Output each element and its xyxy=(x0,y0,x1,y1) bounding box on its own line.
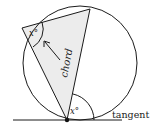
angle-label-bottom: x° xyxy=(70,106,79,116)
tangent-label: tangent xyxy=(112,109,149,120)
tangent-point-dot xyxy=(65,118,69,122)
alternate-segment-diagram: x° x° chord tangent xyxy=(0,0,159,131)
angle-label-top: x° xyxy=(29,28,38,38)
